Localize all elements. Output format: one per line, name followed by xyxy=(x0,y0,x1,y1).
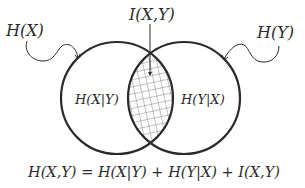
arrow-hy xyxy=(222,44,279,62)
label-ixy: I(X,Y) xyxy=(128,5,175,24)
label-hy: H(Y) xyxy=(256,23,294,42)
venn-diagram: H(X) H(Y) I(X,Y) H(X|Y) H(Y|X) H(X,Y) = … xyxy=(0,0,305,188)
equation: H(X,Y) = H(X|Y) + H(Y|X) + I(X,Y) xyxy=(27,163,280,181)
label-hx: H(X) xyxy=(5,21,44,40)
label-hx-given-y: H(X|Y) xyxy=(74,92,119,107)
label-hy-given-x: H(Y|X) xyxy=(180,92,225,107)
arrow-hx xyxy=(26,41,80,61)
